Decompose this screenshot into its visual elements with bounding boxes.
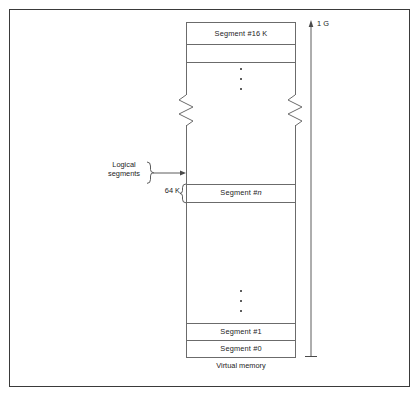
- logical-segments-line-2: segments: [98, 169, 150, 178]
- segment-n-index: n: [257, 188, 261, 197]
- column-bottom-border: [186, 357, 296, 358]
- segment-label-1: Segment #1: [186, 327, 296, 336]
- figure-caption: Virtual memory: [186, 361, 296, 370]
- logical-segments-line-1: Logical: [98, 160, 150, 169]
- vertical-ellipsis-upper: [235, 68, 247, 90]
- virtual-memory-column: Segment #16 K Segment #n Segment #1 Segm…: [186, 22, 296, 357]
- separator-above-segment-n: [186, 184, 296, 185]
- segment-size-label: 64 K: [158, 186, 180, 195]
- column-top-border: [186, 22, 296, 23]
- segment-label-top: Segment #16 K: [186, 29, 296, 38]
- segment-label-n: Segment #n: [186, 188, 296, 197]
- address-space-top-label: 1 G: [317, 19, 329, 28]
- segment-n-prefix: Segment #: [220, 188, 257, 197]
- virtual-memory-diagram: Segment #16 K Segment #n Segment #1 Segm…: [0, 0, 420, 397]
- segment-label-0: Segment #0: [186, 344, 296, 353]
- separator-above-segment-1: [186, 323, 296, 324]
- logical-segments-label: Logical segments: [98, 160, 150, 178]
- vertical-ellipsis-lower: [235, 290, 247, 312]
- separator-below-segment-n: [186, 202, 296, 203]
- separator-below-top-segment: [186, 44, 296, 45]
- separator-above-segment-0: [186, 340, 296, 341]
- separator-below-blank-row: [186, 62, 296, 63]
